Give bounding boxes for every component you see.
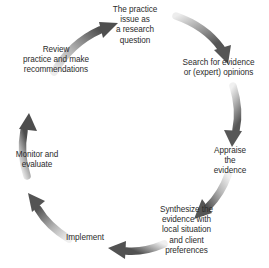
stage-label-review-recommendations: Review practice and make recommendations [4,45,108,76]
arrow-search-to-appraise [224,86,242,147]
arrow-practice-issue-to-search [176,16,231,64]
diagram-canvas: The practice issue as a research questio… [0,0,269,268]
stage-label-monitor-evaluate: Monitor and evaluate [2,150,72,170]
stage-label-practice-issue: The practice issue as a research questio… [92,5,178,46]
stage-label-appraise-evidence: Appraise the evidence [197,146,263,177]
stage-label-implement: Implement [54,233,116,243]
stage-label-synthesize-evidence: Synthesize the evidence with local situa… [148,205,225,256]
stage-label-search-evidence: Search for evidence or (expert) opinions [168,58,269,78]
